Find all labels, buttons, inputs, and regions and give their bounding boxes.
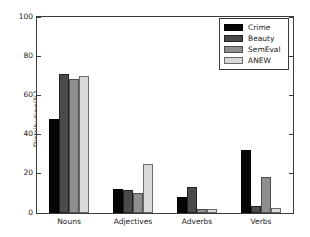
bar-crime-adjectives: [113, 189, 123, 213]
bar-semeval-nouns: [69, 79, 79, 213]
bar-anew-adjectives: [143, 164, 153, 213]
bar-anew-nouns: [79, 76, 89, 213]
bar-crime-verbs: [241, 150, 251, 213]
legend-item-beauty: Beauty: [224, 33, 284, 44]
figure-canvas: Distribution(%) 0 20 40 60: [0, 0, 310, 237]
bar-anew-adverbs: [207, 209, 217, 213]
bar-beauty-nouns: [59, 74, 69, 213]
legend-label-crime: Crime: [248, 23, 270, 32]
legend-swatch-crime: [224, 24, 243, 31]
y-tick-label: 100: [19, 12, 33, 22]
bar-semeval-verbs: [261, 177, 271, 213]
x-tick-label: Adjectives: [114, 217, 153, 226]
bar-beauty-adverbs: [187, 187, 197, 213]
bar-beauty-adjectives: [123, 190, 133, 213]
bar-semeval-adjectives: [133, 193, 143, 213]
legend-label-anew: ANEW: [248, 56, 271, 65]
chart-legend: Crime Beauty SemEval ANEW: [219, 18, 289, 70]
x-tick-label: Verbs: [251, 217, 272, 226]
bar-semeval-adverbs: [197, 209, 207, 213]
bar-crime-nouns: [49, 119, 59, 213]
bar-crime-adverbs: [177, 197, 187, 213]
y-tick-label: 0: [28, 208, 33, 218]
legend-swatch-beauty: [224, 35, 243, 42]
y-tick-label: 40: [23, 129, 33, 139]
y-tick-label: 60: [23, 90, 33, 100]
x-tick-label: Nouns: [57, 217, 81, 226]
legend-item-crime: Crime: [224, 22, 284, 33]
bar-beauty-verbs: [251, 206, 261, 213]
y-tick-label: 80: [23, 51, 33, 61]
bar-anew-verbs: [271, 208, 281, 213]
legend-label-semeval: SemEval: [248, 45, 281, 54]
legend-label-beauty: Beauty: [248, 34, 275, 43]
x-tick-group-adjectives: Adjectives: [101, 17, 165, 213]
x-tick-label: Adverbs: [182, 217, 213, 226]
legend-swatch-anew: [224, 57, 243, 64]
y-tick-label: 20: [23, 168, 33, 178]
legend-item-semeval: SemEval: [224, 44, 284, 55]
legend-swatch-semeval: [224, 46, 243, 53]
legend-item-anew: ANEW: [224, 55, 284, 66]
